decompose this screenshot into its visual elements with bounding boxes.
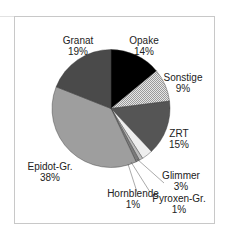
label-zrt-pct: 15% xyxy=(169,139,189,150)
label-glimmer-pct: 3% xyxy=(162,181,200,192)
label-hornblende-pct: 1% xyxy=(107,199,159,210)
label-glimmer-name: Glimmer xyxy=(162,170,200,181)
label-hornblende: Hornblende 1% xyxy=(107,188,159,210)
label-opake-name: Opake xyxy=(129,35,158,46)
leader-line-glimmer xyxy=(137,159,164,183)
label-zrt: ZRT 15% xyxy=(169,128,189,150)
label-epidot-name: Epidot-Gr. xyxy=(27,161,72,172)
label-epidot-pct: 38% xyxy=(27,172,72,183)
label-sonstige-name: Sonstige xyxy=(164,72,203,83)
label-granat-pct: 19% xyxy=(63,46,94,57)
label-pyroxen-pct: 1% xyxy=(152,204,205,215)
label-sonstige-pct: 9% xyxy=(164,83,203,94)
label-zrt-name: ZRT xyxy=(169,128,189,139)
label-sonstige: Sonstige 9% xyxy=(164,72,203,94)
label-pyroxen: Pyroxen-Gr. 1% xyxy=(152,193,205,215)
label-pyroxen-name: Pyroxen-Gr. xyxy=(152,193,205,204)
label-hornblende-name: Hornblende xyxy=(107,188,159,199)
label-granat: Granat 19% xyxy=(63,35,94,57)
label-opake: Opake 14% xyxy=(129,35,158,57)
label-granat-name: Granat xyxy=(63,35,94,46)
label-glimmer: Glimmer 3% xyxy=(162,170,200,192)
label-opake-pct: 14% xyxy=(129,46,158,57)
label-epidot: Epidot-Gr. 38% xyxy=(27,161,72,183)
